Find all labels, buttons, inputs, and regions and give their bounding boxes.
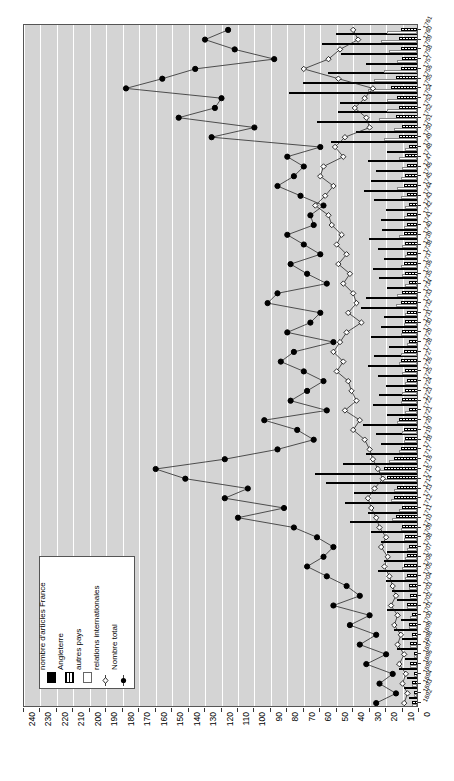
marker-total: 1749 : 60 (318, 144, 323, 149)
x-tick-label: 140 (192, 712, 202, 726)
x-tick (303, 708, 304, 712)
marker-total: 1704 : 44 (344, 583, 349, 588)
year-tick (418, 624, 421, 625)
year-tick (418, 370, 421, 371)
marker-total: 1709 : 62 (314, 535, 319, 540)
marker-relations: 1697 : 9 (401, 652, 406, 657)
marker-total: 1714 : 104 (245, 486, 250, 491)
year-tick (418, 58, 421, 59)
x-tick-label: 50 (340, 712, 350, 721)
x-tick-label: 70 (307, 712, 317, 721)
x-tick (122, 708, 123, 712)
year-tick (418, 507, 421, 508)
year-tick (418, 205, 421, 206)
year-tick (418, 312, 421, 313)
marker-relations: 1760 : 37 (355, 37, 360, 42)
year-tick (418, 68, 421, 69)
x-tick-label: 160 (159, 712, 169, 726)
marker-relations: 1718 : 30 (367, 447, 372, 452)
year-tick (418, 292, 421, 293)
marker-total: 1746 : 76 (291, 174, 296, 179)
x-tick-label: 200 (93, 712, 103, 726)
marker-total: 1737 : 78 (288, 262, 293, 267)
marker-total: 1759 : 112 (232, 47, 237, 52)
marker-total: 1718 : 86 (275, 447, 280, 452)
year-tick (418, 175, 421, 176)
year-tick (418, 488, 421, 489)
marker-relations: 1705 : 18 (387, 574, 392, 579)
year-tick (418, 692, 421, 693)
marker-relations: 1693 : 7 (405, 691, 410, 696)
marker-total: 1741 : 64 (311, 222, 316, 227)
marker-total: 1739 : 70 (301, 242, 306, 247)
year-tick (418, 673, 421, 674)
year-tick (418, 409, 421, 410)
marker-total: 1694 : 24 (377, 681, 382, 686)
year-tick (418, 380, 421, 381)
marker-total: 1744 : 72 (298, 193, 303, 198)
marker-relations: 1692 : 9 (401, 700, 406, 705)
legend-swatch-4 (101, 672, 110, 683)
marker-relations: 1701 : 13 (395, 613, 400, 618)
marker-total: 1696 : 32 (364, 662, 369, 667)
year-tick (418, 97, 421, 98)
year-tick (418, 468, 421, 469)
x-tick-label: 40 (356, 712, 366, 721)
x-tick-label: 10 (406, 712, 416, 721)
marker-total: 1702 : 52 (331, 603, 336, 608)
x-tick-label: 80 (290, 712, 300, 721)
x-tick-label: 210 (76, 712, 86, 726)
marker-relations: 1700 : 15 (392, 622, 397, 627)
marker-relations: 1742 : 55 (326, 213, 331, 218)
x-tick-label: 180 (126, 712, 136, 726)
marker-total: 1708 : 52 (331, 544, 336, 549)
marker-relations: 1747 : 58 (321, 164, 326, 169)
marker-total: 1735 : 56 (324, 281, 329, 286)
marker-total: 1742 : 66 (308, 213, 313, 218)
marker-total: 1701 : 30 (367, 613, 372, 618)
marker-relations: 1706 : 21 (382, 564, 387, 569)
x-tick (237, 708, 238, 712)
marker-total: 1755 : 178 (123, 86, 128, 91)
legend-swatch-1 (47, 672, 56, 683)
year-tick (418, 458, 421, 459)
x-tick (155, 708, 156, 712)
legend-label: relations internationales (92, 586, 101, 671)
year-tick (418, 195, 421, 196)
marker-total: 1719 : 64 (311, 437, 316, 442)
x-tick-label: 130 (208, 712, 218, 726)
marker-relations: 1695 : 8 (403, 671, 408, 676)
x-tick-label: 60 (323, 712, 333, 721)
marker-relations: 1704 : 16 (390, 583, 395, 588)
year-tick (418, 429, 421, 430)
x-tick (352, 708, 353, 712)
legend-label: autres pays (74, 629, 83, 670)
marker-total: 1710 : 76 (291, 525, 296, 530)
marker-total: 1748 : 80 (285, 154, 290, 159)
marker-total: 1729 : 52 (331, 340, 336, 345)
year-tick (418, 107, 421, 108)
marker-relations: 1707 : 19 (385, 554, 390, 559)
marker-total: 1722 : 56 (324, 408, 329, 413)
x-tick-label: 100 (257, 712, 267, 726)
legend-label: Nombre total (110, 624, 119, 670)
x-tick (402, 708, 403, 712)
year-tick (418, 302, 421, 303)
year-tick (418, 185, 421, 186)
x-tick-label: 30 (373, 712, 383, 721)
marker-total: 1725 : 58 (321, 379, 326, 384)
year-tick (418, 702, 421, 703)
marker-relations: 1717 : 28 (370, 456, 375, 461)
marker-total: 1723 : 78 (288, 398, 293, 403)
marker-total: 1733 : 92 (265, 301, 270, 306)
marker-total: 1756 : 156 (160, 76, 165, 81)
marker-relations: 1756 : 49 (336, 76, 341, 81)
marker-total: 1726 : 70 (301, 369, 306, 374)
year-tick (418, 448, 421, 449)
year-tick (418, 585, 421, 586)
year-tick (418, 546, 421, 547)
year-tick (418, 224, 421, 225)
chart-root: 1761 : 401760 : 371759 : 481758 : 551757… (0, 0, 454, 781)
year-tick (418, 390, 421, 391)
marker-total: 1760 : 130 (202, 37, 207, 42)
